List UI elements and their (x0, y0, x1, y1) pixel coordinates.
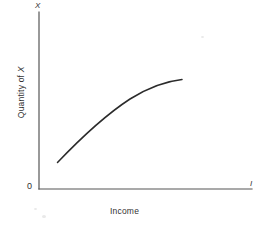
y-axis-title-prefix: Quantity of (16, 72, 26, 118)
y-axis-title-variable: X (16, 66, 26, 72)
x-axis-title: Income (110, 207, 139, 216)
y-axis-tip-label: X (35, 2, 41, 10)
engel-curve-line (58, 80, 183, 163)
y-axis-title: Quantity of X (17, 44, 26, 140)
scan-artifact (42, 215, 46, 218)
scan-artifact (201, 36, 204, 38)
chart-plot-area (0, 0, 267, 226)
scan-artifact (34, 208, 37, 210)
x-axis-tip-label: I (250, 180, 252, 188)
chart-figure: 0 X I Quantity of X Income (0, 0, 267, 226)
origin-label: 0 (27, 182, 32, 191)
